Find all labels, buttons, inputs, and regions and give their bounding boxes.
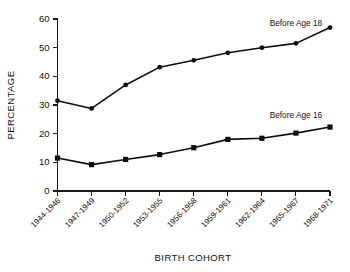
x-tick-label: 1944-1946 [29,196,63,230]
series-2 [55,124,333,167]
data-point-marker [55,155,60,160]
data-series [55,25,333,167]
series-1 [55,25,332,111]
x-axis-title: BIRTH COHORT [155,252,232,263]
y-axis-title: PERCENTAGE [5,71,16,140]
data-point-marker [259,45,264,50]
y-tick-label: 10 [39,156,50,167]
series-annotations: Before Age 18Before Age 16 [270,18,323,120]
y-tick-label: 60 [39,13,50,24]
data-point-marker [327,124,332,129]
data-point-marker [225,50,230,55]
series-annotation-label: Before Age 18 [270,18,323,28]
y-tick-label: 40 [39,70,50,81]
y-tick-label: 50 [39,42,50,53]
x-tick-label: 1968-1971 [301,196,335,230]
series-annotation-label: Before Age 16 [270,110,323,120]
series-polyline [58,28,331,109]
x-tick-label: 1956-1958 [165,196,199,230]
x-tick-label: 1947-1949 [63,196,97,230]
data-point-marker [293,130,298,135]
data-point-marker [328,25,333,30]
data-point-marker [191,145,196,150]
x-tick-label: 1962-1964 [233,196,267,230]
x-tick-label: 1953-1955 [131,196,165,230]
data-point-marker [259,136,264,141]
y-axis-ticks: 0102030405060 [39,13,58,196]
y-tick-label: 0 [44,185,49,196]
data-point-marker [89,162,94,167]
x-axis-ticks: 1944-19461947-19491950-19521953-19551956… [29,191,335,229]
data-point-marker [123,83,128,88]
data-point-marker [123,157,128,162]
chart-container: 0102030405060 1944-19461947-19491950-195… [0,0,350,272]
data-point-marker [157,65,162,70]
data-point-marker [89,106,94,111]
data-point-marker [191,58,196,63]
line-chart: 0102030405060 1944-19461947-19491950-195… [0,0,350,272]
x-tick-label: 1950-1952 [97,196,131,230]
x-tick-label: 1965-1967 [267,196,301,230]
y-tick-label: 30 [39,99,50,110]
data-point-marker [157,152,162,157]
y-tick-label: 20 [39,128,50,139]
data-point-marker [55,98,60,103]
x-tick-label: 1959-1961 [199,196,233,230]
data-point-marker [225,137,230,142]
data-point-marker [294,41,299,46]
